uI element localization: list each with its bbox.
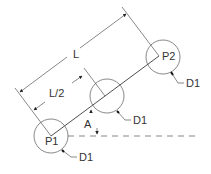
leader-arrow-p1 bbox=[62, 150, 64, 152]
label-l: L bbox=[73, 48, 79, 60]
leader-arrow-mid bbox=[117, 111, 119, 113]
label-p1: P1 bbox=[45, 135, 58, 147]
leader-arrow-p2 bbox=[171, 72, 173, 75]
circle-mid bbox=[90, 79, 124, 113]
label-d1-mid: D1 bbox=[133, 114, 147, 126]
extension-line-mid bbox=[84, 68, 105, 96]
dimension-line-half-b bbox=[72, 76, 82, 83]
dimension-line-half-a bbox=[34, 102, 45, 110]
dimension-line-l-b bbox=[80, 14, 126, 48]
label-angle-a: A bbox=[84, 118, 92, 130]
label-p2: P2 bbox=[162, 50, 175, 62]
extension-line-p1 bbox=[15, 88, 51, 136]
geometry-diagram: L L/2 A P1 P2 D1 D1 D1 bbox=[0, 0, 211, 174]
label-d1-p1: D1 bbox=[79, 151, 93, 163]
label-half-l: L/2 bbox=[49, 87, 64, 99]
extension-line-p2 bbox=[122, 7, 159, 56]
label-d1-p2: D1 bbox=[186, 77, 200, 89]
